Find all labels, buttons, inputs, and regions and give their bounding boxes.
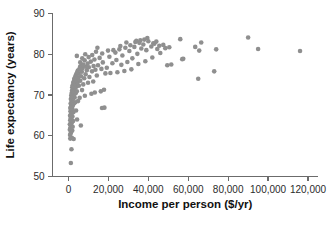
data-point: [125, 60, 130, 65]
data-point: [122, 69, 127, 74]
x-tick-label: 100,000: [250, 184, 287, 195]
data-point: [144, 48, 149, 53]
data-point: [75, 117, 80, 122]
data-point: [115, 70, 120, 75]
data-point: [123, 45, 128, 50]
data-point: [214, 47, 219, 52]
data-point: [91, 64, 96, 69]
data-point: [120, 53, 125, 58]
data-point: [83, 94, 88, 99]
data-point: [90, 53, 95, 58]
data-point: [119, 63, 124, 68]
data-point: [71, 137, 76, 142]
data-point: [135, 52, 140, 57]
x-tick-label: 60,000: [173, 184, 204, 195]
y-tick-label: 80: [33, 49, 45, 60]
data-point: [69, 147, 74, 152]
data-point: [106, 48, 111, 53]
data-point: [127, 49, 132, 54]
y-tick-label: 60: [33, 130, 45, 141]
data-point: [80, 88, 85, 93]
x-tick-label: 40,000: [133, 184, 164, 195]
data-point: [114, 58, 119, 63]
data-point: [87, 75, 92, 80]
y-tick-label: 70: [33, 90, 45, 101]
data-point: [158, 51, 163, 56]
data-points-layer: [68, 35, 303, 165]
data-point: [102, 105, 107, 110]
data-point: [167, 45, 172, 50]
data-point: [94, 50, 99, 55]
x-tick-label: 20,000: [93, 184, 124, 195]
y-tick-label: 90: [33, 8, 45, 19]
data-point: [150, 55, 155, 60]
data-point: [199, 40, 204, 45]
data-point: [108, 71, 113, 76]
data-point: [128, 43, 133, 48]
data-point: [298, 49, 303, 54]
data-point: [99, 67, 104, 72]
data-point: [97, 56, 102, 61]
data-point: [103, 71, 108, 76]
data-point: [79, 123, 84, 128]
data-point: [143, 59, 148, 64]
y-axis-title: Life expectancy (years): [4, 31, 16, 158]
data-point: [105, 65, 110, 70]
data-point: [145, 36, 150, 41]
data-point: [212, 69, 217, 74]
data-point: [138, 38, 143, 43]
data-point: [151, 41, 156, 46]
data-point: [69, 161, 74, 166]
data-point: [95, 45, 100, 50]
data-point: [80, 56, 85, 61]
data-point: [92, 57, 97, 62]
data-point: [124, 40, 129, 45]
data-point: [129, 67, 134, 72]
data-point: [83, 52, 88, 57]
data-point: [136, 62, 141, 67]
chart-canvas: 5060708090020,00040,00060,00080,000100,0…: [0, 0, 335, 226]
data-point: [93, 90, 98, 95]
data-point: [193, 45, 198, 50]
data-point: [178, 37, 183, 42]
data-point: [130, 56, 135, 61]
data-point: [75, 54, 80, 59]
data-point: [81, 82, 86, 87]
data-point: [77, 96, 82, 101]
data-point: [107, 54, 112, 59]
data-point: [157, 43, 162, 48]
y-tick-label: 50: [33, 171, 45, 182]
data-point: [83, 72, 88, 77]
data-point: [96, 63, 101, 68]
data-point: [165, 63, 170, 68]
data-point: [95, 73, 100, 78]
data-point: [118, 44, 123, 49]
data-point: [139, 46, 144, 51]
data-point: [246, 35, 251, 40]
x-tick-label: 120,000: [290, 184, 327, 195]
data-point: [100, 51, 105, 56]
x-axis-title: Income per person ($/yr): [118, 198, 252, 210]
data-point: [196, 76, 201, 81]
x-tick-label: 0: [66, 184, 72, 195]
data-point: [256, 47, 261, 52]
axes-layer: [48, 14, 318, 182]
data-point: [180, 57, 185, 62]
data-point: [134, 39, 139, 44]
scatter-chart-figure: 5060708090020,00040,00060,00080,000100,0…: [0, 0, 335, 226]
data-point: [101, 60, 106, 65]
data-point: [110, 61, 115, 66]
x-tick-label: 80,000: [213, 184, 244, 195]
data-point: [86, 80, 91, 85]
data-point: [132, 45, 137, 50]
data-point: [169, 62, 174, 67]
data-point: [91, 79, 96, 84]
data-point: [161, 43, 166, 48]
data-point: [74, 108, 79, 113]
data-point: [111, 48, 116, 53]
data-point: [78, 60, 83, 65]
data-point: [197, 48, 202, 53]
data-point: [102, 87, 107, 92]
data-point: [141, 42, 146, 47]
